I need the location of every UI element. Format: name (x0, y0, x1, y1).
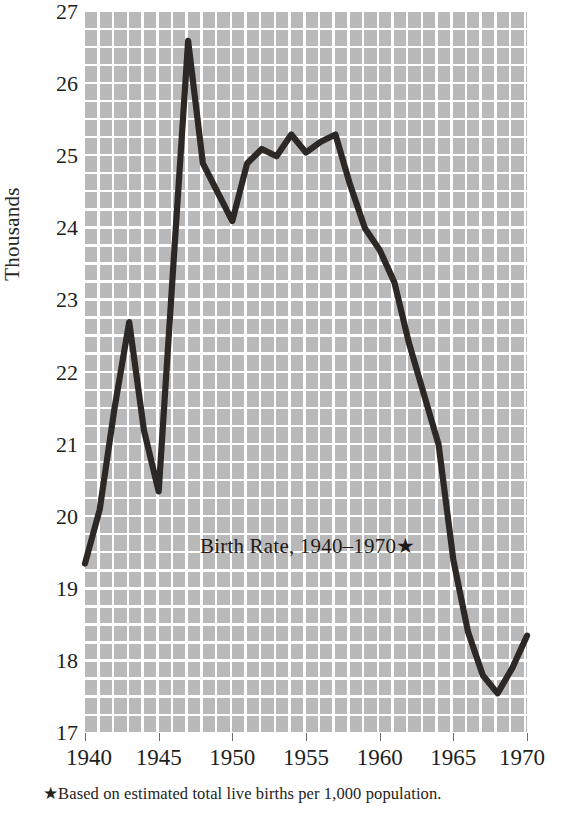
x-axis-tick-mark (232, 733, 233, 741)
y-axis-tick-label: 25 (38, 145, 78, 167)
x-axis-tick-label: 1945 (119, 743, 199, 773)
x-axis-tick-mark (453, 733, 454, 741)
birth-rate-chart-figure: Thousands 2726252423222120191817 Birth R… (0, 0, 565, 820)
x-axis-tick-mark (306, 733, 307, 741)
chart-footnote: ★Based on estimated total live births pe… (43, 784, 442, 804)
x-axis-tick-mark (527, 733, 528, 741)
y-axis-tick-label: 19 (38, 578, 78, 600)
plot-top-mask (85, 0, 527, 12)
x-axis-tick-label: 1960 (340, 743, 420, 773)
y-axis-title: Thousands (0, 134, 34, 334)
x-axis-tick-label: 1940 (49, 743, 129, 773)
x-axis-tick-label: 1950 (192, 743, 272, 773)
y-axis-tick-label: 22 (38, 362, 78, 384)
y-axis-tick-label: 27 (38, 1, 78, 23)
y-axis-tick-label: 21 (38, 434, 78, 456)
series-polyline (85, 41, 527, 694)
y-axis-tick-labels: 2726252423222120191817 (34, 0, 78, 820)
y-axis-tick-label: 26 (38, 73, 78, 95)
x-axis-tick-label: 1970 (482, 743, 562, 773)
y-axis-tick-label: 20 (38, 506, 78, 528)
birth-rate-line-series (85, 12, 527, 733)
y-axis-tick-label: 24 (38, 217, 78, 239)
chart-title: Birth Rate, 1940–1970★ (200, 534, 415, 559)
x-axis-tick-mark (380, 733, 381, 741)
y-axis-tick-label: 23 (38, 289, 78, 311)
x-axis-tick-mark (159, 733, 160, 741)
y-axis-tick-label: 18 (38, 650, 78, 672)
x-axis-tick-labels: 1940194519501955196019651970 (0, 743, 565, 777)
x-axis-tick-mark (85, 733, 86, 741)
x-axis-tick-label: 1955 (266, 743, 346, 773)
